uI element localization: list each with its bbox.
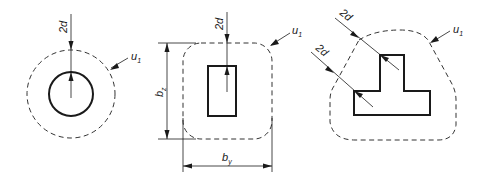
offset-dimension-line-2 (311, 52, 373, 107)
arrow-down-icon (225, 34, 230, 43)
panel-t-shaped: 2d 2d u1 (311, 6, 463, 140)
bz-label: bz (153, 87, 167, 97)
arrow-up-icon (225, 66, 230, 75)
perimeter-label: u1 (131, 50, 141, 64)
arrow-right-icon (263, 164, 272, 169)
leader-arrow-icon (270, 39, 279, 46)
offset-label: 2d (57, 20, 69, 34)
offset-dimension-line-1 (335, 18, 399, 70)
offset-label: 2d (213, 17, 225, 31)
control-perimeter-diagram: 2d u1 2d u1 bz by (0, 0, 487, 182)
control-perimeter-u1 (330, 30, 456, 140)
arrow-up-icon (69, 72, 74, 81)
offset-label-1: 2d (337, 6, 356, 24)
control-perimeter-u1 (183, 43, 272, 139)
leader-arrow-icon (430, 36, 439, 43)
arrow-left-icon (183, 164, 192, 169)
perimeter-label: u1 (453, 23, 463, 37)
panel-circular: 2d u1 (27, 14, 141, 138)
rectangular-column (208, 66, 236, 116)
arrow-up-icon (165, 43, 170, 52)
perimeter-label: u1 (292, 24, 302, 38)
by-label: by (222, 151, 232, 166)
arrow-icon (325, 66, 334, 73)
panel-rectangular: 2d u1 bz by (153, 12, 302, 172)
arrow-down-icon (69, 41, 74, 50)
arrow-icon (350, 31, 359, 38)
arrow-down-icon (165, 130, 170, 139)
